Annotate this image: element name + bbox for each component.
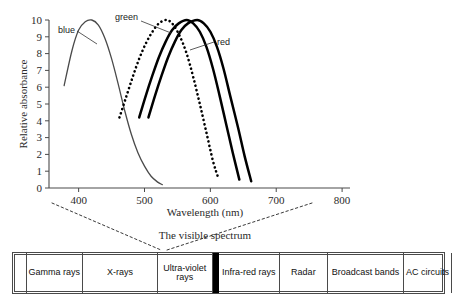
em-spectrum-bar: Gamma raysX-raysUltra-violet raysInfra-r… (12, 252, 445, 294)
band-gamma-rays: Gamma rays (27, 253, 83, 293)
absorbance-spectrum-figure: 012345678910 400500600700800 Relative ab… (0, 0, 457, 301)
y-tick-labels: 012345678910 (31, 14, 43, 194)
x-tick-labels: 400500600700800 (70, 194, 350, 206)
x-tick-label: 700 (268, 194, 285, 206)
curve-green (119, 20, 218, 178)
green-curve-label: green (115, 12, 138, 22)
y-tick-label: 1 (37, 165, 43, 177)
blue-leader-line (77, 31, 97, 44)
x-tick-marks (79, 188, 342, 192)
curve-leader-lines (77, 21, 214, 50)
band-label: X-rays (107, 268, 133, 277)
band-label: Broadcast bands (332, 268, 400, 277)
y-tick-label: 0 (37, 182, 43, 194)
y-axis-title: Relative absorbance (17, 59, 29, 148)
y-tick-marks (45, 20, 49, 188)
y-tick-label: 5 (37, 98, 43, 110)
blue-curve-label: blue (58, 25, 75, 35)
y-tick-label: 6 (37, 81, 43, 93)
y-tick-label: 10 (31, 14, 43, 26)
y-tick-label: 9 (37, 31, 43, 43)
y-tick-label: 3 (37, 131, 43, 143)
band-label: AC circuits (406, 268, 449, 277)
band-label: Radar (291, 268, 316, 277)
green-leader-line (141, 21, 171, 33)
y-tick-label: 2 (37, 148, 43, 160)
y-tick-label: 8 (37, 47, 43, 59)
band-x-rays: X-rays (83, 253, 158, 293)
band-label: Ultra-violet rays (159, 264, 210, 282)
band-infra-red-rays: Infra-red rays (219, 253, 281, 293)
band-broadcast-bands: Broadcast bands (328, 253, 405, 293)
band-blank-9 (452, 253, 457, 293)
band-label: Infra-red rays (222, 268, 276, 277)
x-axis-title: Wavelength (nm) (167, 206, 244, 219)
connector-left (52, 203, 161, 250)
x-tick-label: 600 (202, 194, 219, 206)
x-tick-label: 400 (70, 194, 87, 206)
x-tick-label: 800 (334, 194, 351, 206)
red-leader-line (190, 42, 214, 50)
band-blank-0 (13, 253, 27, 293)
red-curve-label: red (217, 37, 230, 47)
plot-axes (45, 20, 350, 192)
band-radar: Radar (280, 253, 327, 293)
y-tick-label: 4 (37, 115, 43, 127)
curve-blue (64, 20, 162, 185)
y-tick-label: 7 (37, 64, 43, 76)
band-ac-circuits: AC circuits (404, 253, 451, 293)
band-ultra-violet-rays: Ultra-violet rays (158, 253, 212, 293)
x-tick-label: 500 (136, 194, 153, 206)
band-label: Gamma rays (29, 268, 81, 277)
visible-spectrum-caption: The visible spectrum (159, 229, 252, 241)
